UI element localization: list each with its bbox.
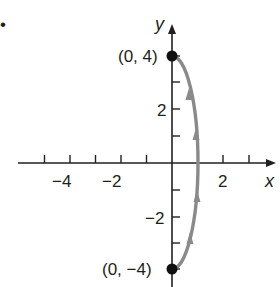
y-axis-arrow-icon: [168, 24, 176, 34]
x-tick-label-2: 2: [218, 172, 227, 191]
point-bottom-label: (0, −4): [102, 260, 152, 279]
parametric-graph: • −4 −2 2 x: [0, 0, 280, 287]
y-tick-label-neg2: −2: [145, 209, 164, 228]
x-axis-label: x: [264, 171, 275, 191]
point-top: [167, 51, 178, 62]
x-axis: −4 −2 2 x: [18, 155, 276, 191]
y-axis-label: y: [153, 14, 165, 34]
x-tick-label-neg4: −4: [52, 172, 71, 191]
direction-arrow-icon: [194, 190, 201, 202]
point-top-label: (0, 4): [118, 47, 158, 66]
point-bottom: [167, 264, 178, 275]
x-axis-arrow-icon: [266, 159, 276, 167]
y-tick-label-2: 2: [157, 101, 166, 120]
x-axis-ticks: [45, 155, 250, 163]
x-tick-label-neg2: −2: [102, 172, 121, 191]
bullet-marker: •: [0, 15, 6, 34]
